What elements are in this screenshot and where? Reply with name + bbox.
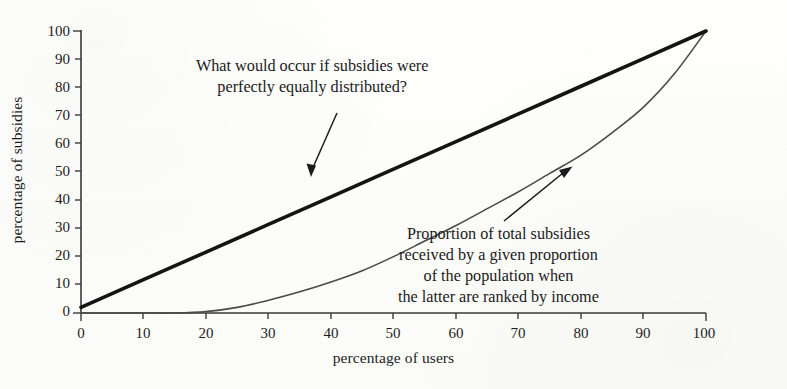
- lorenz-annotation-line-1: Proportion of total subsidies: [398, 224, 599, 245]
- equality-annotation-line-2: perfectly equally distributed?: [196, 77, 428, 98]
- x-tick-marks: [81, 313, 706, 321]
- lorenz-annotation-line-2: received by a given proportion: [398, 245, 599, 266]
- equality-annotation-arrow: [307, 113, 338, 177]
- equality-annotation-line-1: What would occur if subsidies were: [196, 56, 428, 77]
- lorenz-annotation-line-4: the latter are ranked by income: [398, 287, 599, 308]
- equality-annotation-text: What would occur if subsidies were perfe…: [196, 56, 428, 98]
- lorenz-curve-figure: percentage of subsidies percentage of us…: [0, 0, 787, 389]
- lorenz-annotation-text: Proportion of total subsidies received b…: [398, 224, 599, 308]
- y-tick-marks: [73, 31, 81, 313]
- lorenz-annotation-line-3: of the population when: [398, 266, 599, 287]
